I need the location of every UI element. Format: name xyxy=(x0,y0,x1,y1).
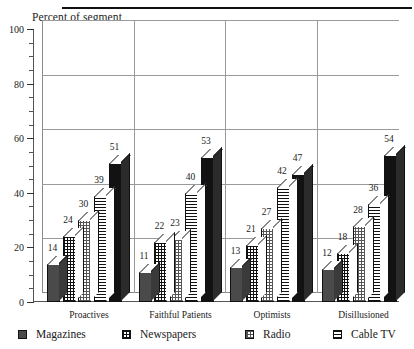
legend-label: Newspapers xyxy=(140,328,196,340)
legend-item[interactable]: Radio xyxy=(245,328,290,340)
legend-item[interactable]: Cable TV xyxy=(333,328,396,340)
y-axis-label: 80 xyxy=(14,78,24,89)
bar-side-face xyxy=(349,243,358,301)
bar-value-label: 47 xyxy=(293,153,303,163)
gridline xyxy=(42,75,399,76)
bar-side-face xyxy=(197,183,206,301)
y-tick-minor xyxy=(29,111,34,112)
y-tick-minor xyxy=(29,152,34,153)
gridline xyxy=(42,129,399,130)
y-tick-major xyxy=(27,193,34,194)
chart-figure: Percent of segment 020406080100 51393024… xyxy=(0,0,414,349)
y-tick-minor xyxy=(29,288,34,289)
y-tick-minor xyxy=(29,206,34,207)
legend-label: Magazines xyxy=(36,328,86,340)
bar-value-label: 18 xyxy=(338,232,348,242)
legend-swatch-icon xyxy=(333,330,342,339)
category-separator xyxy=(134,20,135,293)
gridline xyxy=(42,20,399,21)
legend-swatch-icon xyxy=(122,330,131,339)
y-tick-major xyxy=(27,247,34,248)
top-divider-rule xyxy=(62,7,412,9)
y-axis-label: 0 xyxy=(19,297,24,308)
bar-value-label: 54 xyxy=(384,134,394,144)
bar-value-label: 24 xyxy=(63,215,73,225)
y-tick-major xyxy=(27,302,34,303)
bar-side-face xyxy=(365,216,374,301)
bar-value-label: 28 xyxy=(353,205,363,215)
bar-side-face xyxy=(380,194,389,301)
bar-value-label: 23 xyxy=(170,218,180,228)
y-axis-label: 100 xyxy=(9,24,24,35)
y-tick-major xyxy=(27,29,34,30)
category-label: Proactives xyxy=(69,310,109,320)
bar-side-face xyxy=(166,232,175,301)
category-separator xyxy=(225,20,226,293)
y-tick-minor xyxy=(29,234,34,235)
category-label: Optimists xyxy=(254,310,291,320)
y-axis-label: 60 xyxy=(14,133,24,144)
bar-side-face xyxy=(304,164,313,301)
category-separator xyxy=(317,20,318,293)
bar-side-face xyxy=(273,218,282,301)
bar-value-label: 39 xyxy=(94,175,104,185)
y-axis-label: 40 xyxy=(14,187,24,198)
category-label: Disillusioned xyxy=(338,310,389,320)
bar-side-face xyxy=(75,226,84,301)
bar-value-label: 13 xyxy=(231,246,241,256)
bar-value-label: 53 xyxy=(201,136,211,146)
legend-swatch-icon xyxy=(245,330,254,339)
bar-side-face xyxy=(289,177,298,301)
category-label: Faithful Patients xyxy=(149,310,212,320)
bar-side-face xyxy=(90,210,99,301)
legend-item[interactable]: Magazines xyxy=(18,328,86,340)
bar xyxy=(230,267,243,302)
legend-label: Radio xyxy=(263,328,290,340)
y-tick-minor xyxy=(29,220,34,221)
bar-side-face xyxy=(106,186,115,301)
plot-area: 020406080100 513930241453402322114742272… xyxy=(33,29,399,302)
bar-value-label: 30 xyxy=(79,199,89,209)
bar-value-label: 22 xyxy=(155,221,165,231)
bar-side-face xyxy=(213,147,222,301)
bar-side-face xyxy=(258,235,267,301)
y-tick-minor xyxy=(29,97,34,98)
y-tick-minor xyxy=(29,70,34,71)
y-tick-minor xyxy=(29,56,34,57)
y-tick-major xyxy=(27,84,34,85)
bar-side-face xyxy=(396,145,405,301)
legend-item[interactable]: Newspapers xyxy=(122,328,196,340)
bar-value-label: 40 xyxy=(186,172,196,182)
bar xyxy=(47,264,60,302)
y-tick-minor xyxy=(29,43,34,44)
bar-side-face xyxy=(121,153,130,301)
bar-value-label: 27 xyxy=(262,207,272,217)
bar xyxy=(322,269,335,302)
bar-value-label: 36 xyxy=(369,183,379,193)
legend-label: Cable TV xyxy=(351,328,396,340)
bar-value-label: 14 xyxy=(48,243,58,253)
chart-legend: MagazinesNewspapersRadioCable TV xyxy=(0,326,414,348)
bar-value-label: 11 xyxy=(139,251,148,261)
bar-side-face xyxy=(182,229,191,301)
bar-value-label: 21 xyxy=(246,224,256,234)
y-tick-major xyxy=(27,138,34,139)
y-tick-minor xyxy=(29,275,34,276)
bar xyxy=(139,272,152,302)
y-tick-minor xyxy=(29,166,34,167)
y-axis-label: 20 xyxy=(14,242,24,253)
bar-value-label: 51 xyxy=(110,142,120,152)
bar-value-label: 42 xyxy=(277,166,287,176)
y-tick-minor xyxy=(29,125,34,126)
y-tick-minor xyxy=(29,179,34,180)
legend-swatch-icon xyxy=(18,330,27,339)
y-tick-minor xyxy=(29,261,34,262)
bar-value-label: 12 xyxy=(322,248,332,258)
